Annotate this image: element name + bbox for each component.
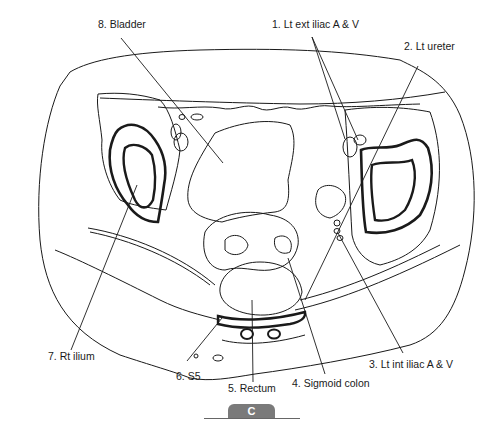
posterior-small-1	[194, 354, 198, 358]
leader-4-sigmoid	[288, 258, 325, 374]
lt-ext-iliac-vein	[354, 135, 366, 145]
bowel-loop-inner	[225, 235, 291, 254]
rt-vessel-b	[174, 133, 188, 151]
leader-5-rectum	[252, 300, 253, 382]
label-rt-ilium: 7. Rt ilium	[48, 350, 95, 362]
badge-divider	[204, 418, 300, 419]
rt-lateral-line	[55, 250, 220, 320]
posterior-soft-tissue	[222, 335, 305, 343]
lt-gluteal-line	[295, 245, 460, 310]
leader-7-rt-ilium	[71, 185, 137, 350]
lt-pelvic-wall	[345, 107, 439, 265]
lt-ilium-inner	[371, 160, 415, 221]
rt-gluteal-line	[88, 228, 215, 285]
label-lt-ext-iliac: 1. Lt ext iliac A & V	[272, 18, 359, 30]
label-sigmoid-colon: 4. Sigmoid colon	[292, 377, 370, 389]
leader-6-s5	[187, 318, 222, 361]
panel-badge: C	[228, 404, 275, 418]
lt-ext-iliac-artery	[343, 137, 357, 157]
label-bladder: 8. Bladder	[98, 18, 146, 30]
rt-ilium-inner	[123, 145, 155, 208]
pelvis-cross-section-diagram: 8. Bladder 1. Lt ext iliac A & V 2. Lt u…	[0, 0, 498, 434]
rt-vessel-a	[171, 124, 181, 140]
rt-small-structure	[191, 114, 203, 120]
label-s5: 6. S5	[176, 370, 201, 382]
label-lt-int-iliac: 3. Lt int iliac A & V	[369, 358, 453, 370]
label-rectum: 5. Rectum	[228, 382, 276, 394]
sigmoid-colon	[316, 185, 346, 218]
coccyx-right	[268, 330, 280, 339]
coccyx-left	[241, 329, 253, 339]
bladder	[188, 122, 294, 222]
label-lt-ureter: 2. Lt ureter	[404, 40, 455, 52]
rt-ilium-outer	[110, 125, 166, 222]
leader-3-int-iliac	[338, 233, 403, 353]
leader-2-ureter	[305, 66, 418, 300]
sacrum-s5	[218, 312, 305, 328]
posterior-small-2	[213, 355, 223, 361]
lt-int-iliac-1	[334, 220, 340, 226]
